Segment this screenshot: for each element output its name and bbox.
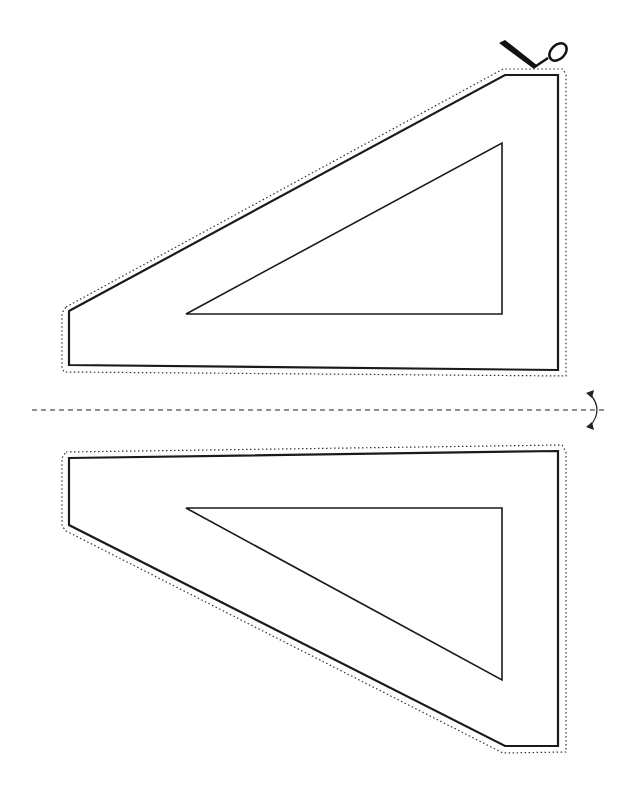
set-square-template: [0, 0, 630, 791]
scissors-icon: [499, 40, 570, 69]
upper-piece: [62, 69, 566, 376]
lower-piece: [62, 445, 566, 753]
